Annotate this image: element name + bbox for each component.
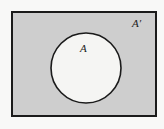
set-a-label: A (80, 43, 87, 54)
set-a-complement-label: A′ (132, 18, 141, 29)
venn-diagram-figure: A A′ (0, 0, 164, 129)
